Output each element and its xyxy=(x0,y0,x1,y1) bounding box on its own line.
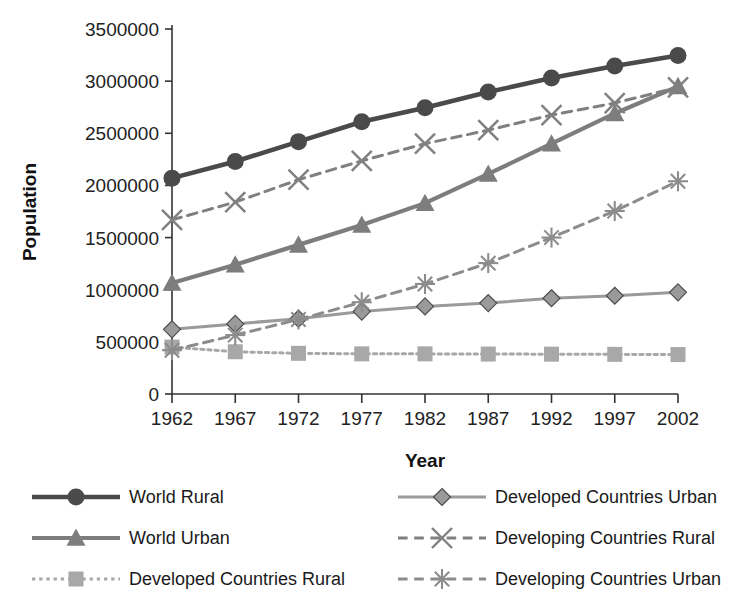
y-tick-label: 3500000 xyxy=(85,19,159,40)
legend-label: Developing Countries Rural xyxy=(495,528,715,548)
data-point-circle xyxy=(68,489,85,506)
chart-canvas: 0500000100000015000002000000250000030000… xyxy=(0,0,741,609)
x-tick-label: 1987 xyxy=(467,408,509,429)
data-point-diamond xyxy=(543,290,560,307)
y-axis: 0500000100000015000002000000250000030000… xyxy=(85,19,172,405)
data-point-circle xyxy=(227,153,244,170)
data-point-cross xyxy=(225,192,245,212)
data-point-star xyxy=(289,309,309,329)
y-tick-label: 2500000 xyxy=(85,123,159,144)
legend-item-developing-countries-urban[interactable]: Developing Countries Urban xyxy=(398,569,721,589)
data-point-diamond xyxy=(434,489,451,506)
data-point-square xyxy=(69,572,84,587)
series-line xyxy=(172,56,678,179)
data-point-cross xyxy=(542,105,562,125)
data-point-cross xyxy=(352,151,372,171)
legend-label: World Rural xyxy=(129,487,224,507)
population-line-chart: 0500000100000015000002000000250000030000… xyxy=(0,0,741,609)
data-point-circle xyxy=(353,113,370,130)
data-point-star xyxy=(668,171,688,191)
data-point-square xyxy=(228,344,243,359)
plot-series-group xyxy=(162,47,688,362)
data-point-star xyxy=(225,325,245,345)
data-point-star xyxy=(162,340,182,360)
x-tick-label: 2002 xyxy=(657,408,699,429)
data-point-diamond xyxy=(480,295,497,312)
y-tick-label: 0 xyxy=(148,384,159,405)
data-point-square xyxy=(418,346,433,361)
y-axis-title: Population xyxy=(19,163,40,261)
legend-label: World Urban xyxy=(129,528,230,548)
x-tick-label: 1962 xyxy=(151,408,193,429)
data-point-circle xyxy=(290,133,307,150)
data-point-circle xyxy=(670,47,687,64)
x-tick-label: 1967 xyxy=(214,408,256,429)
data-point-star xyxy=(432,569,452,589)
data-point-circle xyxy=(543,70,560,87)
data-point-square xyxy=(291,346,306,361)
x-axis: 196219671972197719821987199219972002 xyxy=(151,394,699,429)
data-point-square xyxy=(671,347,686,362)
data-point-square xyxy=(607,347,622,362)
data-point-circle xyxy=(417,99,434,116)
data-point-cross xyxy=(289,170,309,190)
data-point-diamond xyxy=(417,298,434,315)
x-tick-label: 1997 xyxy=(594,408,636,429)
data-point-circle xyxy=(164,170,181,187)
y-tick-label: 500000 xyxy=(96,332,159,353)
series-developed-countries-rural xyxy=(165,340,686,363)
legend-label: Developed Countries Rural xyxy=(129,569,345,589)
data-point-star xyxy=(542,228,562,248)
x-tick-label: 1972 xyxy=(277,408,319,429)
legend-item-world-urban[interactable]: World Urban xyxy=(32,528,230,548)
data-point-star xyxy=(478,253,498,273)
data-point-circle xyxy=(606,58,623,75)
data-point-cross xyxy=(415,134,435,154)
data-point-square xyxy=(544,347,559,362)
data-point-diamond xyxy=(670,284,687,301)
legend-label: Developed Countries Urban xyxy=(495,487,717,507)
legend-item-developing-countries-rural[interactable]: Developing Countries Rural xyxy=(398,528,715,548)
y-tick-label: 2000000 xyxy=(85,175,159,196)
chart-legend: World RuralWorld UrbanDeveloped Countrie… xyxy=(32,487,721,589)
y-tick-label: 1000000 xyxy=(85,280,159,301)
legend-item-developed-countries-rural[interactable]: Developed Countries Rural xyxy=(32,569,345,589)
data-point-square xyxy=(354,346,369,361)
y-tick-label: 1500000 xyxy=(85,228,159,249)
data-point-star xyxy=(352,292,372,312)
x-tick-label: 1977 xyxy=(341,408,383,429)
legend-item-developed-countries-urban[interactable]: Developed Countries Urban xyxy=(398,487,717,507)
x-tick-label: 1992 xyxy=(530,408,572,429)
data-point-square xyxy=(481,347,496,362)
y-tick-label: 3000000 xyxy=(85,71,159,92)
data-point-star xyxy=(605,201,625,221)
data-point-cross xyxy=(478,120,498,140)
x-tick-label: 1982 xyxy=(404,408,446,429)
x-axis-title: Year xyxy=(405,450,446,471)
data-point-star xyxy=(415,274,435,294)
data-point-diamond xyxy=(606,287,623,304)
legend-item-world-rural[interactable]: World Rural xyxy=(32,487,224,507)
data-point-circle xyxy=(480,84,497,101)
legend-label: Developing Countries Urban xyxy=(495,569,721,589)
data-point-diamond xyxy=(164,321,181,338)
